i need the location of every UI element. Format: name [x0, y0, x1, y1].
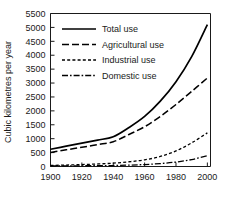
y-tick-label: 5000 [25, 23, 45, 33]
water-use-line-chart: Cubic kilometres per year 05001000150020… [0, 0, 227, 197]
legend-label-domestic-use: Domestic use [102, 71, 157, 81]
chart-canvas: Cubic kilometres per year 05001000150020… [0, 0, 227, 197]
y-tick-label: 4500 [25, 37, 45, 47]
legend-label-industrial-use: Industrial use [102, 55, 156, 65]
x-tick-label: 1920 [72, 172, 92, 182]
y-tick-label: 2500 [25, 92, 45, 102]
x-tick-label: 1940 [103, 172, 123, 182]
x-tick-label: 1960 [135, 172, 155, 182]
legend-label-agricultural-use: Agricultural use [102, 40, 164, 50]
legend-label-total-use: Total use [102, 24, 138, 34]
x-tick-label: 2000 [197, 172, 217, 182]
y-tick-label: 0 [40, 162, 45, 172]
y-axis-title: Cubic kilometres per year [3, 41, 13, 143]
y-tick-label: 3000 [25, 78, 45, 88]
y-tick-label: 2000 [25, 106, 45, 116]
y-tick-label: 5500 [25, 9, 45, 19]
y-tick-label: 4000 [25, 50, 45, 60]
y-tick-label: 500 [30, 148, 45, 158]
y-tick-label: 3500 [25, 64, 45, 74]
y-tick-label: 1500 [25, 120, 45, 130]
x-tick-label: 1980 [166, 172, 186, 182]
y-tick-label: 1000 [25, 134, 45, 144]
x-tick-label: 1900 [40, 172, 60, 182]
